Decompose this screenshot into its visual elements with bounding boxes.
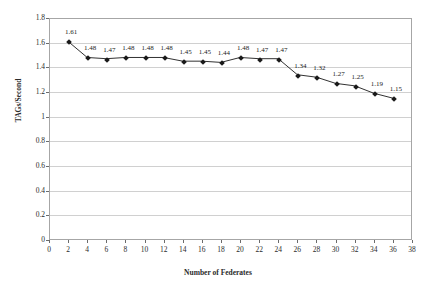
y-tick-label: 0.4 [15,187,45,195]
y-tick-mark [46,43,49,44]
x-tick-label: 38 [401,246,423,254]
x-tick-mark [374,240,375,243]
y-axis-title: TAGs/Second [14,56,23,146]
data-point-marker [353,84,359,90]
x-tick-mark [221,240,222,243]
data-point-marker [124,56,130,62]
y-tick-label: 1.6 [15,39,45,47]
data-point-marker [181,59,187,65]
data-point-marker [391,96,397,102]
data-point-label: 1.47 [268,47,294,54]
x-tick-mark [316,240,317,243]
y-tick-mark [46,18,49,19]
y-tick-label: 0 [15,236,45,244]
x-tick-mark [259,240,260,243]
y-tick-mark [46,92,49,93]
x-tick-mark [278,240,279,243]
x-axis-title: Number of Federates [0,268,436,277]
data-point-marker [104,57,110,63]
x-tick-mark [412,240,413,243]
gridline [50,117,411,118]
y-tick-label: 1.8 [15,14,45,22]
data-point-label: 1.25 [345,74,371,81]
data-point-marker [85,56,91,62]
data-point-marker [276,57,282,63]
x-tick-mark [183,240,184,243]
gridline [50,191,411,192]
data-point-marker [162,56,168,62]
x-tick-mark [240,240,241,243]
gridline [50,43,411,44]
data-point-label: 1.61 [58,29,84,36]
y-tick-mark [46,215,49,216]
y-tick-label: 0.6 [15,162,45,170]
x-tick-mark [202,240,203,243]
y-tick-mark [46,191,49,192]
chart-container: 1.611.481.471.481.481.481.451.451.441.48… [0,0,436,292]
y-tick-label: 0.2 [15,211,45,219]
gridline [50,67,411,68]
x-tick-mark [297,240,298,243]
x-tick-mark [87,240,88,243]
y-tick-mark [46,166,49,167]
gridline [50,141,411,142]
data-point-marker [66,40,72,46]
gridline [50,92,411,93]
x-tick-mark [49,240,50,243]
x-tick-mark [106,240,107,243]
data-point-marker [143,56,149,62]
y-tick-mark [46,117,49,118]
x-tick-mark [336,240,337,243]
data-point-marker [219,61,225,67]
x-tick-mark [355,240,356,243]
y-tick-mark [46,67,49,68]
data-point-marker [238,56,244,62]
gridline [50,166,411,167]
x-tick-mark [145,240,146,243]
data-point-label: 1.15 [383,86,409,93]
data-point-marker [257,57,263,63]
x-tick-mark [125,240,126,243]
data-point-marker [296,73,302,79]
plot-area: 1.611.481.471.481.481.481.451.451.441.48… [49,18,412,240]
y-tick-mark [46,141,49,142]
x-tick-mark [68,240,69,243]
data-point-marker [334,82,340,88]
data-point-marker [372,91,378,97]
data-point-marker [315,75,321,81]
x-tick-mark [164,240,165,243]
gridline [50,215,411,216]
x-tick-mark [393,240,394,243]
data-point-marker [200,59,206,65]
